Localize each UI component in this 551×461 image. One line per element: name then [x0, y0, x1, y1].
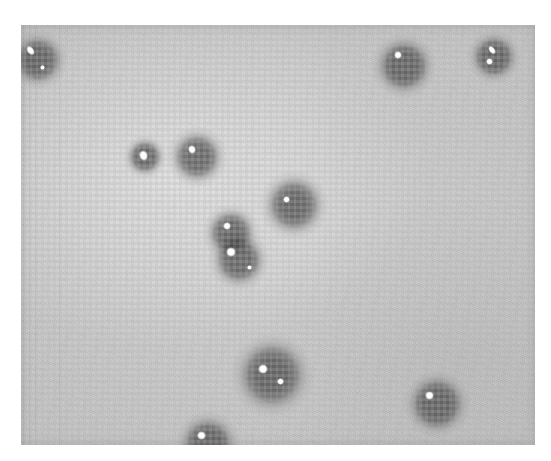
page-root [0, 0, 551, 461]
photographic-plate-image [21, 25, 535, 445]
plate-emulsion-background [21, 25, 535, 445]
